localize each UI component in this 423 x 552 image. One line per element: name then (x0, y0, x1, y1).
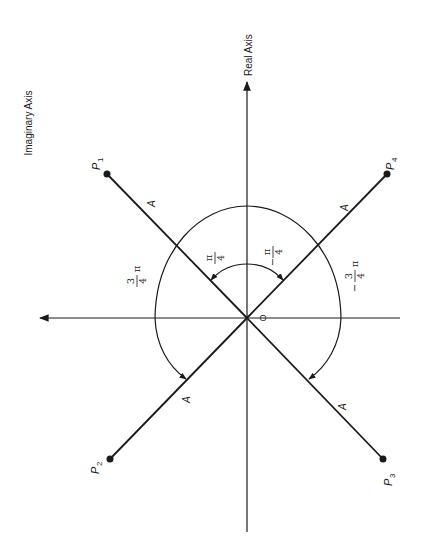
arc-three-pi-over-4 (155, 206, 247, 379)
svg-text:4: 4 (216, 255, 226, 261)
magnitude-label-p2: A (181, 396, 192, 404)
magnitude-label-p3: A (337, 403, 348, 411)
imaginary-axis-label: Imaginary Axis (23, 90, 34, 155)
svg-text:4: 4 (390, 157, 399, 162)
svg-text:P: P (89, 466, 101, 474)
point-p2-dot (107, 456, 114, 463)
point-p3-label: P 3 (382, 473, 397, 486)
svg-text:π: π (349, 260, 360, 267)
point-p1-dot (104, 171, 111, 178)
point-p4-label: P 4 (384, 157, 399, 170)
svg-text:π: π (261, 248, 272, 255)
arc-neg-three-pi-over-4 (247, 206, 341, 379)
origin-label: O (258, 314, 268, 321)
point-p4-dot (384, 171, 391, 178)
point-p3-dot (380, 456, 387, 463)
svg-text:4: 4 (274, 249, 284, 255)
phasor-line-p2 (110, 318, 247, 459)
svg-text:3: 3 (388, 473, 397, 478)
svg-text:4: 4 (356, 273, 366, 279)
phasor-line-p3 (247, 318, 383, 459)
svg-text:P: P (90, 162, 102, 170)
magnitude-label-p4: A (339, 204, 350, 212)
svg-text:−: − (349, 284, 360, 292)
svg-text:2: 2 (95, 461, 104, 466)
angle-label-three-pi-over-4: 3 4 π (125, 265, 148, 287)
svg-text:3: 3 (343, 273, 354, 279)
svg-text:π: π (203, 254, 214, 261)
angle-label-neg-three-pi-over-4: − 3 4 π (343, 260, 366, 292)
magnitude-label-p1: A (146, 200, 157, 208)
arc-pi-over-4 (211, 264, 247, 280)
svg-text:P: P (384, 162, 396, 170)
svg-text:1: 1 (96, 157, 105, 162)
phasor-diagram: Real Axis Imaginary Axis O P 1 P 4 P 2 P… (0, 0, 423, 552)
phasor-line-p4 (247, 174, 387, 318)
real-axis-label: Real Axis (243, 34, 254, 76)
svg-text:3: 3 (125, 278, 136, 284)
svg-text:P: P (382, 478, 394, 486)
svg-text:−: − (267, 258, 278, 266)
point-p2-label: P 2 (89, 461, 104, 474)
angle-label-neg-pi-over-4: − π 4 (261, 246, 284, 266)
svg-text:4: 4 (138, 278, 148, 284)
point-p1-label: P 1 (90, 157, 105, 170)
angle-label-pi-over-4: π 4 (203, 252, 226, 264)
svg-text:π: π (131, 265, 142, 272)
